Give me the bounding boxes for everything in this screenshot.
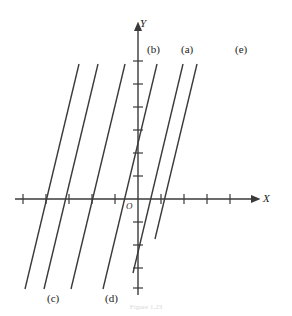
y-axis (133, 30, 143, 295)
parallel-lines-group (25, 64, 197, 289)
line-label-b: (b) (147, 44, 160, 55)
line-label-c: (c) (47, 293, 59, 304)
line-label-a: (a) (181, 44, 193, 55)
line-a (103, 64, 157, 289)
origin-label: O (126, 202, 133, 211)
line-b (71, 64, 125, 289)
x-axis (15, 194, 252, 204)
line-middle (133, 64, 183, 273)
figure-container: X Y O (b) (a) (e) (c) (d) Figure 1.23 (0, 0, 292, 316)
figure-caption: Figure 1.23 (0, 304, 292, 311)
line-e (155, 64, 197, 239)
y-axis-label: Y (140, 18, 146, 29)
line-label-e: (e) (235, 44, 247, 55)
x-axis-label: X (263, 193, 270, 204)
line-label-d: (d) (105, 293, 118, 304)
coordinate-plot (0, 0, 292, 316)
